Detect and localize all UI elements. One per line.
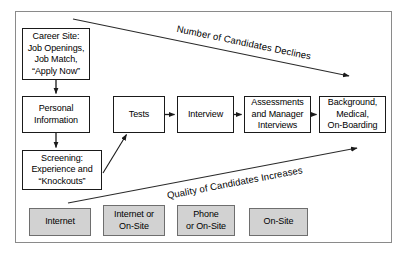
channel-node-internet-or-on-site[interactable]: Internet or On-Site — [103, 205, 165, 236]
process-node-personal-information[interactable]: Personal Information — [22, 96, 90, 133]
process-node-background-medical-onboarding[interactable]: Background, Medical, On-Boarding — [319, 96, 386, 133]
process-node-interview[interactable]: Interview — [177, 96, 234, 133]
process-node-assessments-manager-interviews[interactable]: Assessments and Manager Interviews — [244, 96, 311, 133]
channel-node-on-site[interactable]: On-Site — [249, 208, 308, 236]
process-node-tests[interactable]: Tests — [113, 96, 165, 133]
process-node-career-site[interactable]: Career Site: Job Openings, Job Match, “A… — [22, 28, 90, 80]
process-node-screening[interactable]: Screening: Experience and “Knockouts” — [22, 150, 102, 190]
channel-node-internet[interactable]: Internet — [29, 208, 91, 236]
channel-node-phone-or-on-site[interactable]: Phone or On-Site — [177, 205, 235, 236]
diagram-canvas: Career Site: Job Openings, Job Match, “A… — [0, 0, 412, 255]
